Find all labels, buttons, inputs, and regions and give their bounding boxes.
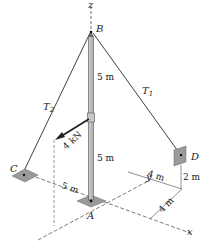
point-B-label: B [95, 23, 103, 34]
dim-D-height: 2 m [183, 172, 201, 182]
cable-T2 [23, 33, 90, 173]
plate-D [174, 146, 186, 166]
x-axis-label: x [187, 226, 193, 237]
dim-pole-lower: 5 m [97, 153, 115, 163]
point-D-label: D [190, 151, 199, 162]
point-B [90, 31, 93, 34]
dim-AC: 5 m [60, 180, 80, 195]
point-C-label: C [10, 163, 18, 174]
cable-T1 [93, 33, 180, 154]
force-arrow-head [55, 132, 65, 140]
anchor-D [180, 154, 182, 156]
point-A [90, 200, 93, 203]
pole-cable-diagram: z x y C D B A 4 kN 5 m 5 m 5 m 4 m 4 m 2… [0, 0, 204, 252]
cable-T2-label: T2 [43, 101, 55, 114]
z-axis-label: z [87, 0, 94, 10]
force-label: 4 kN [61, 129, 84, 151]
point-A-label: A [86, 210, 94, 221]
dim-pole-upper: 5 m [97, 72, 115, 82]
anchor-C [23, 174, 25, 176]
cable-T1-label: T1 [142, 85, 153, 98]
sleeve [88, 113, 95, 122]
